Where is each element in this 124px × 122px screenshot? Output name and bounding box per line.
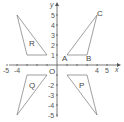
triangle-r-label: R xyxy=(29,39,35,48)
origin-label: O xyxy=(49,67,55,76)
y-tick-label: -5 xyxy=(48,112,54,119)
x-tick-label: 4 xyxy=(95,67,99,74)
y-tick-label: -3 xyxy=(48,92,54,99)
y-arrow-icon xyxy=(55,2,59,6)
x-axis-label: x xyxy=(114,66,119,73)
y-tick-label: 4 xyxy=(51,22,55,29)
triangle-abc xyxy=(67,15,97,55)
y-tick-label: -2 xyxy=(48,82,54,89)
y-tick-label: 3 xyxy=(51,32,55,39)
y-tick-label: 1 xyxy=(51,52,55,59)
triangle-q-label: Q xyxy=(29,81,35,90)
vertex-label-c: C xyxy=(97,9,103,18)
vertex-label-b: B xyxy=(86,54,91,63)
triangle-p-label: P xyxy=(79,81,84,90)
y-tick-label: 2 xyxy=(51,42,55,49)
y-tick-label: -4 xyxy=(48,102,54,109)
triangle-r xyxy=(17,15,47,55)
vertex-label-a: A xyxy=(62,54,68,63)
x-tick-label: 5 xyxy=(105,67,109,74)
grid-svg: -5 -4 4 5 x y 5 4 3 2 1 -2 -3 -4 -5 O A … xyxy=(0,0,124,122)
coordinate-diagram: -5 -4 4 5 x y 5 4 3 2 1 -2 -3 -4 -5 O A … xyxy=(0,0,124,122)
x-tick-label: -5 xyxy=(3,67,9,74)
y-axis-label: y xyxy=(49,1,54,9)
x-tick-label: -4 xyxy=(14,67,20,74)
y-tick-label: 5 xyxy=(51,12,55,19)
